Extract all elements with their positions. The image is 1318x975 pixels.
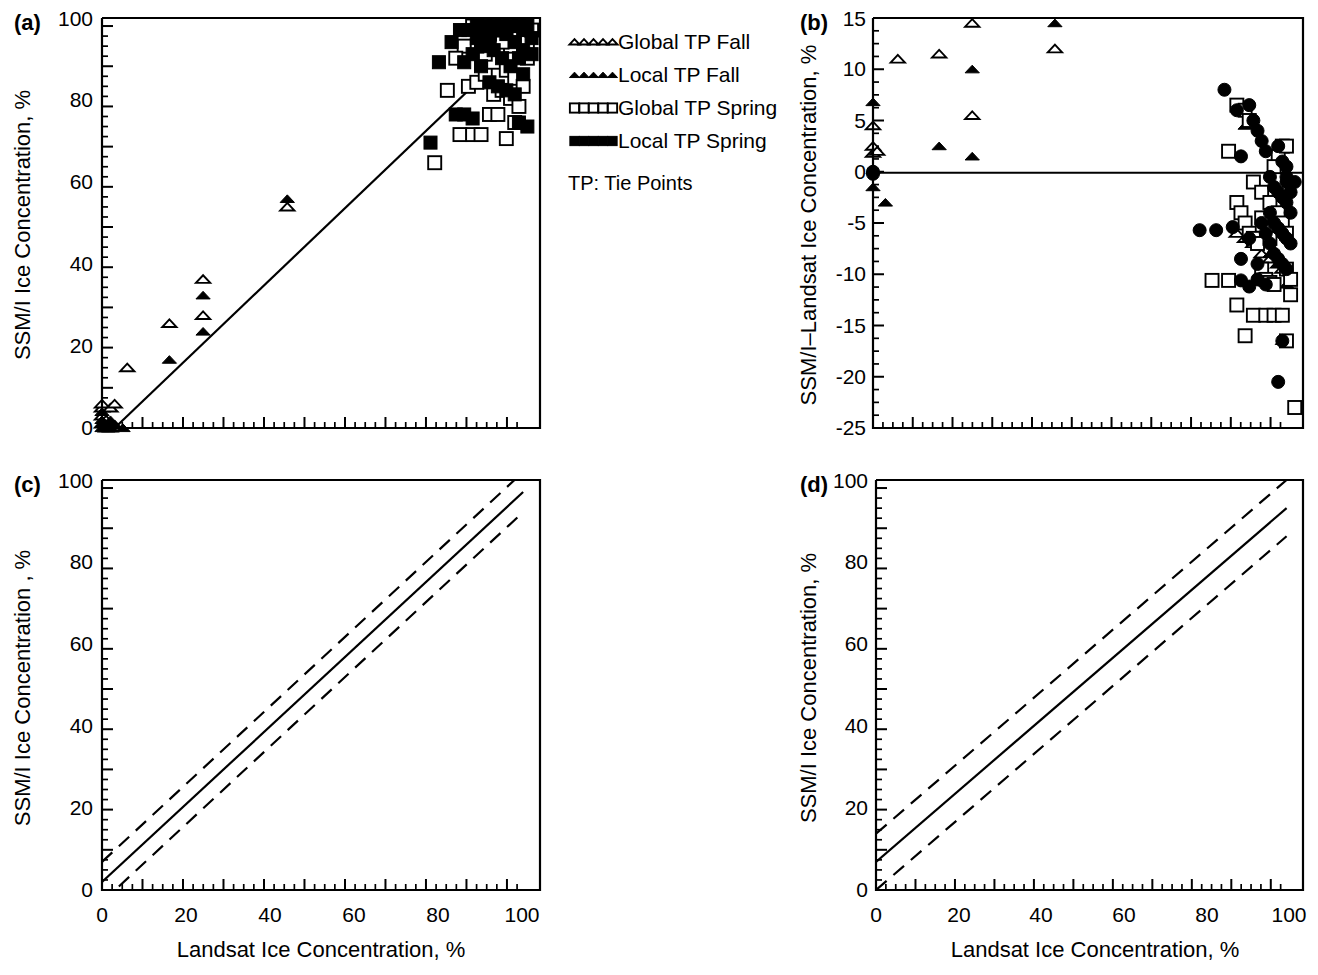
legend-label-1: Local TP Fall [618, 63, 740, 86]
panel-d-xtick-40: 40 [1029, 903, 1052, 926]
panel-c-xtick-40: 40 [258, 903, 281, 926]
panel-d-xtick-labels: 0 20 40 60 80 100 [870, 903, 1306, 926]
data-point [932, 142, 946, 150]
data-point [432, 56, 445, 69]
panel-d-ytick-40: 40 [845, 714, 868, 737]
data-point [525, 32, 538, 45]
data-point [1239, 329, 1252, 342]
data-point [1234, 252, 1247, 265]
panel-d-ytick-100: 100 [833, 469, 868, 492]
legend-marker-glyph [608, 103, 617, 112]
data-point [891, 55, 905, 63]
panel-d-data-layer [876, 480, 1287, 890]
legend-label-3: Local TP Spring [618, 129, 767, 152]
data-point [1048, 45, 1062, 53]
panel-b-ytick-15: 15 [843, 7, 866, 30]
data-point [487, 44, 500, 57]
series-global-tp-fall [95, 203, 295, 432]
panel-a-ytick-20: 20 [70, 334, 93, 357]
data-point [965, 152, 979, 160]
panel-c-ytick-20: 20 [70, 796, 93, 819]
data-point [453, 128, 466, 141]
panel-c-svg: (c) SSM/I Ice Concentration , % Landsat … [0, 450, 560, 975]
data-point [1243, 232, 1256, 245]
data-point [470, 20, 483, 33]
panel-c-xtick-60: 60 [342, 903, 365, 926]
panel-c: (c) SSM/I Ice Concentration , % Landsat … [0, 450, 560, 975]
panel-d-xlabel: Landsat Ice Concentration, % [951, 937, 1240, 962]
upper-confidence-band [102, 472, 523, 862]
panel-b-ytick-5: 5 [854, 109, 866, 132]
data-point [1206, 274, 1219, 287]
panel-c-xtick-labels: 0 20 40 60 80 100 [96, 903, 539, 926]
data-point [1276, 334, 1289, 347]
panel-c-ytick-40: 40 [70, 714, 93, 737]
panel-a-ytick-100: 100 [58, 7, 93, 30]
data-point [1276, 309, 1289, 322]
data-point [466, 112, 479, 125]
panel-d-ytick-80: 80 [845, 550, 868, 573]
data-point [1284, 206, 1297, 219]
data-point [491, 108, 504, 121]
data-point [1280, 263, 1293, 276]
data-point [1243, 99, 1256, 112]
legend-marker-glyph [589, 136, 598, 145]
data-point [120, 364, 134, 372]
data-point [1288, 401, 1301, 414]
lower-confidence-band [876, 536, 1287, 890]
panel-b-data-layer [866, 19, 1301, 414]
data-point [1259, 278, 1272, 291]
panel-a: (a) SSM/I Ice Concentration, % 0 20 40 6… [0, 0, 560, 460]
data-point [1247, 309, 1260, 322]
panel-d-xtick-20: 20 [947, 903, 970, 926]
panel-d-svg: (d) SSM/I Ice Concentration, % Landsat I… [790, 450, 1318, 975]
panel-c-ylabel: SSM/I Ice Concentration , % [10, 550, 35, 826]
panel-b-ytick-0: 0 [854, 160, 866, 183]
regression-fit [102, 492, 523, 882]
legend-marker-glyph [579, 39, 589, 44]
data-point [878, 198, 892, 206]
data-point [1230, 298, 1243, 311]
data-point [1210, 224, 1223, 237]
data-point [1276, 155, 1289, 168]
panel-c-ytick-60: 60 [70, 632, 93, 655]
data-point [428, 156, 441, 169]
panel-b-ytick-m15: -15 [836, 314, 866, 337]
data-point [965, 65, 979, 73]
panel-a-ytick-0: 0 [81, 416, 93, 439]
data-point [500, 132, 513, 145]
data-point [508, 88, 521, 101]
legend-marker-glyph [608, 136, 617, 145]
data-point [525, 48, 538, 61]
data-point [1288, 175, 1301, 188]
data-point [475, 128, 488, 141]
panel-d-xtick-0: 0 [870, 903, 882, 926]
panel-b-svg: (b) SSM/I–Landsat Ice Concentration, % -… [790, 0, 1318, 460]
panel-a-svg: (a) SSM/I Ice Concentration, % 0 20 40 6… [0, 0, 560, 460]
panel-b-ytick-10: 10 [843, 57, 866, 80]
legend-swatch-open-square [570, 103, 617, 112]
panel-a-data-layer [95, 20, 538, 432]
panel-d: (d) SSM/I Ice Concentration, % Landsat I… [790, 450, 1318, 975]
legend-swatch-filled-triangle [569, 72, 617, 77]
panel-c-xtick-20: 20 [174, 903, 197, 926]
panel-b-ytick-m5: -5 [847, 211, 866, 234]
data-point [1048, 19, 1062, 27]
legend-swatch-open-triangle [569, 39, 617, 44]
data-point [521, 120, 534, 133]
data-point [1234, 150, 1247, 163]
panel-c-ytick-0: 0 [81, 878, 93, 901]
legend-marker-glyph [570, 136, 579, 145]
d-lines [876, 480, 1287, 890]
legend-marker-glyph [607, 72, 617, 77]
legend-marker-glyph [589, 103, 598, 112]
panel-c-xtick-100: 100 [504, 903, 539, 926]
panel-b-ticks [873, 18, 1280, 428]
legend-marker-glyph [598, 136, 607, 145]
legend-marker-glyph [569, 39, 579, 44]
panel-c-ytick-labels: 0 20 40 60 80 100 [58, 469, 93, 901]
panel-d-ytick-labels: 0 20 40 60 80 100 [833, 469, 868, 901]
legend-note: TP: Tie Points [568, 172, 693, 194]
panel-a-ytick-40: 40 [70, 252, 93, 275]
data-point [196, 311, 210, 319]
